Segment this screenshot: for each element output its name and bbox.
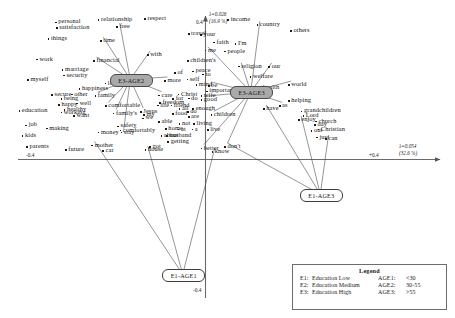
legend-row: E1:Education LowAGE1:<30 [293,275,446,281]
word-marker-dot [188,116,190,118]
word-label: our [272,63,281,69]
word-marker-dot [19,110,21,112]
group-node-e3-age3[interactable]: E3-AGE3 [230,86,273,99]
word-marker-dot [165,128,167,130]
group-node-e3-age2[interactable]: E3-AGE2 [110,74,153,87]
word-marker-dot [36,59,38,61]
legend-code: E2: [300,282,312,288]
word-marker-dot [140,111,142,113]
word-point: education [22,107,48,113]
word-point: good [204,96,217,102]
group-node-e1-age1[interactable]: E1-AGE1 [162,269,205,282]
word-label: want [76,112,89,118]
word-marker-dot [166,135,168,137]
word-marker-dot [187,60,189,62]
word-label: children [214,111,236,117]
word-point: myself [30,76,48,82]
word-point: things [51,35,67,41]
word-label: myself [30,76,48,82]
word-marker-dot [288,100,290,102]
word-label: religion [241,63,262,69]
word-point: car [106,147,114,153]
word-marker-dot [55,22,57,24]
word-marker-dot [200,34,202,36]
word-marker-dot [279,105,281,107]
legend-age-code: AGE1: [378,275,406,281]
word-point: know [215,148,230,154]
word-marker-dot [62,69,64,71]
word-point: country [260,21,280,27]
word-label: enjoy [301,116,316,122]
word-marker-dot [196,84,198,86]
word-marker-dot [61,112,63,114]
word-marker-dot [201,99,203,101]
word-label: parents [30,143,49,149]
word-label: work [40,56,54,62]
word-marker-dot [238,66,240,68]
group-node-e1-age3[interactable]: E1-AGE3 [300,189,343,202]
word-point: security [66,72,87,78]
word-marker-dot [158,121,160,123]
word-label: education [22,107,48,113]
word-marker-dot [268,66,270,68]
word-point: kids [25,132,36,138]
word-point: do [191,95,198,101]
word-point: to [206,71,211,77]
word-point: financial [96,57,119,63]
word-label: enough [196,105,215,111]
word-label: faith [217,39,229,45]
word-label: security [66,72,87,78]
word-point: money [101,129,119,135]
word-point: children's [190,57,216,63]
word-point: work [40,56,54,62]
word-label: we [146,114,154,120]
legend-range: <30 [406,275,434,281]
word-label: as [282,102,288,108]
word-marker-dot [201,95,203,97]
word-marker-dot [158,95,160,97]
word-marker-dot [105,105,107,107]
word-point: welfare [253,73,273,79]
word-point: live [210,126,220,132]
word-label: income [231,16,250,22]
legend-range: 30-55 [406,282,434,288]
word-label: can [329,135,338,141]
y-axis-bottom-tick: -0.4 [193,287,201,293]
word-label: others [293,27,309,33]
legend-age-code: AGE3: [378,289,406,295]
node-word-link [95,142,183,275]
word-point: Christian [321,126,345,132]
word-label: country [260,21,280,27]
word-point: children [214,111,236,117]
word-marker-dot [48,38,50,40]
word-marker-dot [187,79,189,81]
x-axis-right-tick: +0.4 [369,152,379,158]
word-marker-dot [22,135,24,137]
word-label: life [160,102,169,108]
legend-row: E2:Education MediumAGE2:30-55 [293,282,446,288]
word-point: a [195,126,198,132]
legend-desc: Education Medium [312,282,378,288]
legend-rows: E1:Education LowAGE1:<30E2:Education Med… [293,275,446,295]
word-point: making [49,125,69,131]
word-label: of [177,69,183,75]
word-marker-dot [46,128,48,130]
word-marker-dot [192,129,194,131]
word-point: just [319,134,329,140]
word-label: a [195,126,198,132]
legend-desc: Education Low [312,275,378,281]
word-marker-dot [117,126,119,128]
word-label: car [106,147,114,153]
legend-row: E3:Education HighAGE3:>55 [293,289,446,295]
word-label: time [103,37,115,43]
word-point: income [231,16,250,22]
word-label: satisfaction [59,24,89,30]
word-label: don't [228,143,241,149]
word-marker-dot [76,103,78,105]
word-point: free [120,23,130,29]
word-marker-dot [212,151,214,153]
word-marker-dot [144,18,146,20]
word-point: life [160,102,169,108]
word-marker-dot [167,141,169,143]
word-point: time [103,37,115,43]
